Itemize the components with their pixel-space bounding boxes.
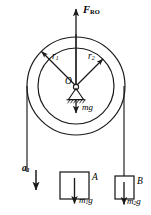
label-center-o: O xyxy=(65,77,72,87)
radius-arrow-r2 xyxy=(76,59,103,86)
label-acceleration-a1: a1 xyxy=(22,164,30,174)
label-force-fro: FRO xyxy=(83,5,100,16)
label-weight-m2g: m2g xyxy=(127,197,141,207)
label-weight-m1g: m1g xyxy=(79,196,93,206)
pivot-triangle xyxy=(69,89,84,100)
label-radius-r2: r2 xyxy=(88,52,95,62)
label-block-b: B xyxy=(137,177,143,187)
physics-diagram xyxy=(0,0,151,215)
label-weight-mg: mg xyxy=(82,103,93,112)
figure-canvas: FRO r1 r2 O mg a1 A B m1g m2g xyxy=(0,0,151,215)
label-radius-r1: r1 xyxy=(52,52,59,62)
label-block-a: A xyxy=(92,173,98,183)
